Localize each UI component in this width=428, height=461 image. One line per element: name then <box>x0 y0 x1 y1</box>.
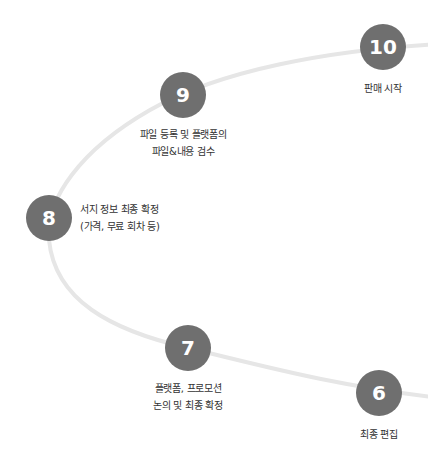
step-9-circle: 9 <box>160 72 206 118</box>
step-number: 7 <box>181 336 195 360</box>
step-6-label: 최종 편집 <box>339 426 419 443</box>
step-10-circle: 10 <box>360 24 406 70</box>
step-8-label: 서지 정보 최종 확정 (가격, 무료 회차 등) <box>80 201 160 235</box>
step-10-label: 판매 시작 <box>343 80 423 97</box>
step-number: 6 <box>372 381 386 405</box>
step-number: 9 <box>176 83 190 107</box>
step-6-circle: 6 <box>356 370 402 416</box>
step-number: 10 <box>369 35 397 59</box>
step-7-label: 플랫폼, 프로모션 논의 및 최종 확정 <box>128 380 248 414</box>
step-8-circle: 8 <box>26 195 72 241</box>
step-number: 8 <box>42 206 56 230</box>
step-7-circle: 7 <box>165 325 211 371</box>
step-9-label: 파일 등록 및 플랫폼의 파일&내용 검수 <box>123 126 243 160</box>
